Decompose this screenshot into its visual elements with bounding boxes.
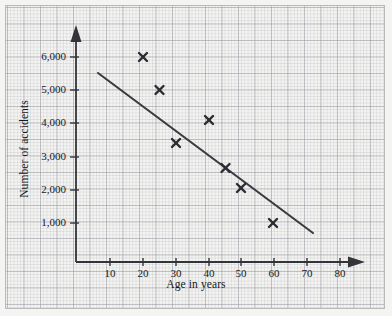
data-point-marker xyxy=(237,184,245,192)
y-axis xyxy=(71,25,82,262)
y-axis-ticks xyxy=(70,57,79,223)
y-axis-title-wrapper: Number of accidents xyxy=(14,64,32,234)
data-point-markers xyxy=(139,53,277,227)
x-axis xyxy=(76,257,365,268)
data-point-marker xyxy=(156,86,164,94)
graph-figure: 6,000 5,000 4,000 3,000 2,000 1,000 10 2… xyxy=(0,0,392,316)
data-point-marker xyxy=(269,219,277,227)
trend-line xyxy=(98,73,313,233)
data-point-marker xyxy=(139,53,147,61)
data-point-marker xyxy=(172,139,180,147)
y-axis-title: Number of accidents xyxy=(18,100,30,198)
y-tick-label-6000: 6,000 xyxy=(8,50,66,62)
data-point-marker xyxy=(205,116,213,124)
x-axis-title: Age in years xyxy=(0,278,392,290)
data-point-marker xyxy=(222,164,230,172)
